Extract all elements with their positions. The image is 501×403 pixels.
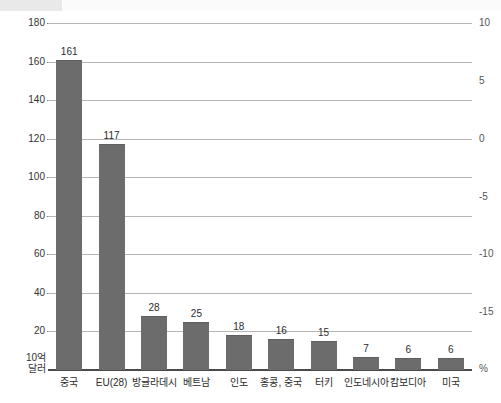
bar[interactable]	[438, 358, 464, 370]
bar-value-label: 15	[299, 328, 349, 338]
header-band-filler	[62, 0, 501, 11]
plot-area	[48, 23, 472, 370]
bar[interactable]	[268, 339, 294, 370]
y-axis-right-tick-neg10: -10	[479, 249, 493, 259]
y-axis-left-tick-180: 180	[5, 18, 45, 28]
y-axis-left-tick-100: 100	[5, 172, 45, 182]
y-axis-right-tick-0: 0	[479, 134, 485, 144]
y-axis-right-tick-5: 5	[479, 76, 485, 86]
bar[interactable]	[226, 335, 252, 370]
bar[interactable]	[56, 60, 82, 370]
bar[interactable]	[141, 316, 167, 370]
y-axis-left-tick-80: 80	[5, 211, 45, 221]
bar[interactable]	[311, 341, 337, 370]
y-axis-left-tick-120: 120	[5, 134, 45, 144]
x-axis-label-9: 미국	[421, 378, 481, 388]
y-axis-left-tick-140: 140	[5, 95, 45, 105]
chart-container: 20406080100120140160180 10억 달러 1050-5-10…	[0, 0, 501, 403]
bar-value-label: 25	[171, 309, 221, 319]
y-axis-left-tick-20: 20	[5, 326, 45, 336]
y-axis-right-unit-label: %	[479, 364, 488, 374]
gridline	[48, 23, 472, 24]
bar-value-label: 6	[426, 345, 476, 355]
bar[interactable]	[395, 358, 421, 370]
y-axis-left-unit-line1: 10억	[6, 352, 46, 363]
gridline	[48, 100, 472, 101]
bar[interactable]	[353, 357, 379, 370]
y-axis-right-tick-neg5: -5	[479, 192, 488, 202]
y-axis-left-unit-label: 10억 달러	[6, 352, 46, 374]
y-axis-right-tick-10: 10	[479, 18, 490, 28]
y-axis-left-tick-60: 60	[5, 249, 45, 259]
bar[interactable]	[99, 144, 125, 370]
y-axis-left-tick-160: 160	[5, 57, 45, 67]
y-axis-left-tick-40: 40	[5, 288, 45, 298]
y-axis-right-tick-neg15: -15	[479, 307, 493, 317]
bar[interactable]	[183, 322, 209, 370]
bar-value-label: 161	[44, 47, 94, 57]
gridline	[48, 62, 472, 63]
bar-value-label: 117	[87, 131, 137, 141]
y-axis-left-unit-line2: 달러	[6, 363, 46, 374]
header-band	[0, 0, 62, 11]
